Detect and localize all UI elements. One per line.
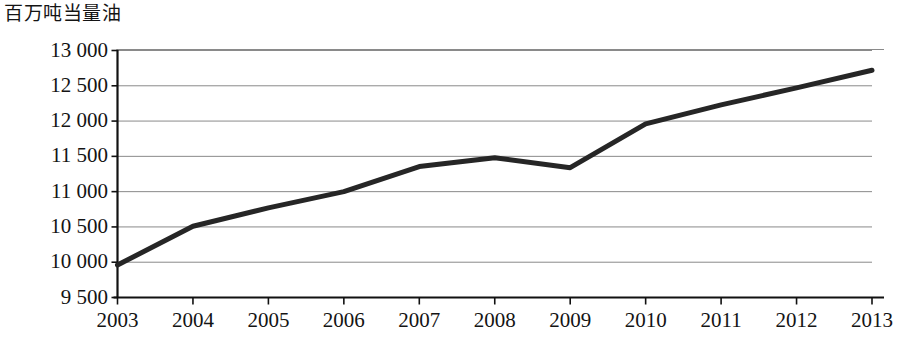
x-axis-tick-label: 2008	[457, 308, 533, 332]
axis-ticks	[112, 51, 873, 305]
axis-lines	[114, 50, 885, 298]
x-axis-tick-label: 2011	[683, 308, 759, 332]
x-axis-tick-label: 2010	[608, 308, 684, 332]
x-axis-tick-label: 2012	[759, 308, 835, 332]
x-axis-tick-label: 2013	[834, 308, 897, 332]
x-axis-tick-label: 2004	[155, 308, 231, 332]
x-axis-tick-label: 2006	[306, 308, 382, 332]
x-axis-tick-label: 2007	[381, 308, 457, 332]
x-axis-tick-label: 2003	[80, 308, 156, 332]
series-line	[118, 70, 873, 265]
data-line-series	[118, 70, 873, 265]
x-axis-tick-label: 2009	[532, 308, 608, 332]
x-axis-tick-label: 2005	[230, 308, 306, 332]
